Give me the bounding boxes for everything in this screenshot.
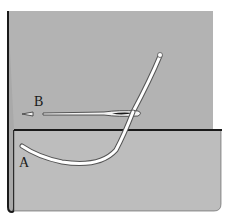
- label-b: B: [34, 94, 43, 109]
- sewing-diagram: B A: [0, 0, 227, 218]
- thread-end: [158, 53, 163, 58]
- diagram-canvas: B A: [0, 0, 227, 218]
- label-a: A: [19, 155, 30, 170]
